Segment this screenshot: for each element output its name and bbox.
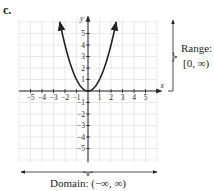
range-brace	[173, 52, 177, 62]
x-tick-label: 3	[121, 93, 125, 102]
range-value: [0, ∞)	[183, 57, 209, 69]
x-tick-label: −4	[38, 93, 46, 102]
y-tick-label: −1	[77, 98, 85, 107]
y-tick-label: −4	[77, 133, 85, 142]
y-tick-label: −3	[77, 121, 85, 130]
range-title: Range:	[181, 42, 212, 54]
y-tick-label: 2	[81, 64, 85, 73]
y-tick-label: −2	[77, 110, 85, 119]
x-axis-label: x	[159, 81, 164, 90]
x-tick-label: 4	[132, 93, 136, 102]
domain-brace	[83, 172, 93, 176]
y-tick-label: 1	[81, 75, 85, 84]
x-tick-label: 5	[144, 93, 148, 102]
tick-labels: −5−4−3−2−11234554321−1−2−3−4−5xy	[27, 14, 165, 153]
x-tick-label: 2	[109, 93, 113, 102]
parabola-graph: −5−4−3−2−11234554321−1−2−3−4−5xy	[0, 0, 214, 191]
x-tick-label: −3	[50, 93, 58, 102]
y-tick-label: 4	[81, 41, 85, 50]
y-tick-label: 3	[81, 52, 85, 61]
x-tick-label: 1	[98, 93, 102, 102]
axes	[19, 16, 162, 162]
x-tick-label: −2	[61, 93, 69, 102]
y-tick-label: 5	[81, 29, 85, 38]
y-axis-label: y	[79, 14, 84, 23]
x-tick-label: −5	[27, 93, 35, 102]
range-arrow	[168, 20, 173, 91]
y-tick-label: −5	[77, 144, 85, 153]
domain-label: Domain: (−∞, ∞)	[50, 177, 126, 189]
